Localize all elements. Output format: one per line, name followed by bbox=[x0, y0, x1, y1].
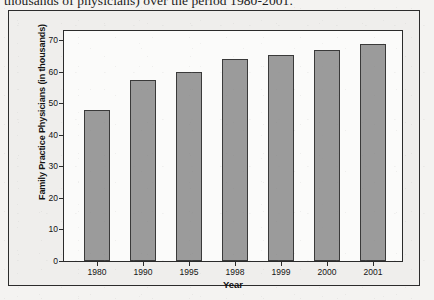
x-axis-tick-mark bbox=[235, 261, 236, 266]
bar-slot bbox=[304, 31, 350, 261]
x-axis-tick-label: 1999 bbox=[258, 267, 304, 277]
bar-chart: Family Practice Physicians (in thousands… bbox=[9, 11, 421, 287]
bar bbox=[314, 50, 340, 261]
bar-slot bbox=[212, 31, 258, 261]
x-axis-tick-label: 1990 bbox=[120, 267, 166, 277]
x-axis-tick-label: 1995 bbox=[166, 267, 212, 277]
bar bbox=[84, 110, 110, 261]
x-axis-tick-mark bbox=[373, 261, 374, 266]
y-axis-tick-mark bbox=[59, 135, 64, 136]
x-axis-tick-mark bbox=[327, 261, 328, 266]
y-axis-tick-mark bbox=[59, 40, 64, 41]
y-axis-tick-label: 0 bbox=[30, 256, 58, 266]
plot-area: 010203040506070 bbox=[63, 30, 403, 262]
bar bbox=[130, 80, 156, 261]
y-axis-tick-label: 50 bbox=[30, 98, 58, 108]
bar-slot bbox=[258, 31, 304, 261]
bar-slot bbox=[166, 31, 212, 261]
y-axis-tick-label: 10 bbox=[30, 224, 58, 234]
bar bbox=[176, 72, 202, 261]
caption-text: thousands of physicians) over the period… bbox=[4, 0, 424, 9]
x-axis-tick-label: 1980 bbox=[74, 267, 120, 277]
y-axis-tick-mark bbox=[59, 166, 64, 167]
bar-slot bbox=[74, 31, 120, 261]
y-axis-tick-label: 70 bbox=[30, 35, 58, 45]
bars-container bbox=[64, 31, 402, 261]
y-axis-tick-label: 60 bbox=[30, 67, 58, 77]
y-axis-tick-label: 30 bbox=[30, 161, 58, 171]
y-axis-tick-label: 20 bbox=[30, 193, 58, 203]
x-axis-tick-mark bbox=[189, 261, 190, 266]
y-axis-tick-mark bbox=[59, 103, 64, 104]
y-axis-tick-mark bbox=[59, 72, 64, 73]
x-axis-tick-mark bbox=[97, 261, 98, 266]
bar bbox=[268, 55, 294, 261]
x-axis-title: Year bbox=[63, 279, 403, 290]
y-axis-tick-mark bbox=[59, 229, 64, 230]
y-axis-tick-label: 40 bbox=[30, 130, 58, 140]
bar bbox=[360, 44, 386, 261]
bar-slot bbox=[350, 31, 396, 261]
x-axis-tick-mark bbox=[143, 261, 144, 266]
figure-frame: Family Practice Physicians (in thousands… bbox=[8, 10, 420, 286]
x-axis-tick-mark bbox=[281, 261, 282, 266]
x-axis-tick-label: 1998 bbox=[212, 267, 258, 277]
y-axis-tick-mark bbox=[59, 261, 64, 262]
bar-slot bbox=[120, 31, 166, 261]
bar bbox=[222, 59, 248, 261]
y-axis-tick-mark bbox=[59, 198, 64, 199]
x-axis-tick-label: 2001 bbox=[350, 267, 396, 277]
x-axis-tick-label: 2000 bbox=[304, 267, 350, 277]
